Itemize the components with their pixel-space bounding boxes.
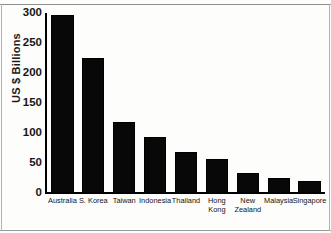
x-axis-tick-labels: AustraliaS. KoreaTaiwanIndonesiaThailand… [47,196,327,230]
bar [144,137,166,193]
bar [113,122,135,193]
y-axis-tick-label: 200 [2,67,42,79]
bar [237,173,259,193]
x-axis-tick-label: Singapore [290,196,329,205]
y-axis-tick-label: 150 [2,97,42,109]
y-axis-tick-label: 300 [2,7,42,19]
y-axis-tick-label: 50 [2,157,42,169]
y-axis-tick-label: 0 [2,187,42,199]
bar [268,178,290,193]
page-border-top [0,4,331,5]
bar [175,152,197,193]
y-axis-tick-label: 250 [2,37,42,49]
y-axis-tick-labels: 050100150200250300 [0,0,42,233]
bar [206,159,228,193]
y-axis-tick-label: 100 [2,127,42,139]
page-border-bottom [0,230,331,231]
bar-chart-figure: US $ Billions 050100150200250300 Austral… [0,0,331,233]
bar-series [47,13,325,193]
bar [298,181,320,193]
bar [51,15,73,193]
page-border-right [329,4,330,231]
bar [82,58,104,193]
